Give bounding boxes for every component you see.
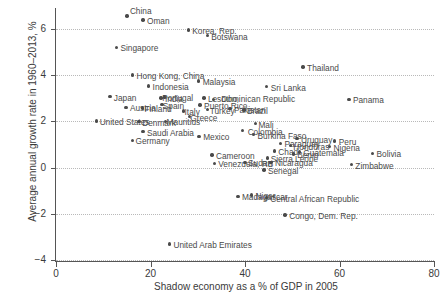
x-tick-mark [151,262,152,267]
data-point [243,161,246,164]
gridline-horizontal [56,260,434,261]
y-tick-mark [51,29,56,30]
data-point-label: Thailand [307,64,339,72]
y-tick-label: 4 [18,69,46,80]
data-point-label: Congo, Dem. Rep. [289,212,358,220]
data-point-label: Brazil [247,107,268,115]
data-point-label: Indonesia [153,83,189,91]
data-point-label: Sri Lanka [271,84,306,92]
data-point [273,149,276,152]
data-point [197,135,200,138]
data-point [262,168,265,171]
y-tick-mark [51,260,56,261]
data-point [125,14,128,17]
data-point [213,162,216,165]
data-point [250,193,253,196]
y-tick-label: 2 [18,115,46,126]
data-point-label: Bolivia [377,150,401,158]
y-tick-label: −2 [18,208,46,219]
data-point-label: Japan [114,94,137,102]
data-point [269,161,272,164]
data-point-label: Senegal [268,167,298,175]
data-point [371,152,374,155]
data-point [202,96,205,99]
x-tick-label: 20 [131,268,171,279]
data-point-label: Mexico [203,133,229,141]
x-tick-mark [245,262,246,267]
scatter-chart-figure: Average annual growth rate in 1960–2013,… [0,0,442,305]
data-point [283,213,286,216]
data-point [95,119,98,122]
data-point-label: United Arab Emirates [173,241,251,249]
data-point [265,85,268,88]
x-tick-mark [56,262,57,267]
data-point-label: Zimbabwe [355,162,393,170]
gridline-horizontal [56,29,434,30]
data-point [131,139,134,142]
x-tick-label: 80 [414,268,442,279]
data-point [197,79,200,82]
data-point [347,98,350,101]
data-point [141,130,144,133]
y-tick-mark [51,75,56,76]
data-point [350,163,353,166]
x-tick-mark [340,262,341,267]
data-point [242,108,245,111]
data-point [108,95,111,98]
data-point [254,122,257,125]
y-tick-label: −4 [18,254,46,265]
x-axis-title: Shadow economy as a % of GDP in 2005 [56,281,436,292]
data-point-label: Central African Republic [270,195,359,203]
y-tick-label: 0 [18,162,46,173]
data-point [241,129,244,132]
data-point [187,28,190,31]
y-tick-mark [51,214,56,215]
data-point-label: Germany [136,137,170,145]
data-point [206,34,209,37]
data-point [210,153,213,156]
y-tick-label: 6 [18,23,46,34]
data-point-label: China [130,7,152,15]
data-point [236,195,239,198]
gridline-horizontal [56,75,434,76]
data-point-label: Colombia [248,128,283,136]
data-point [301,65,304,68]
data-point-label: Botswana [211,33,247,41]
data-point-label: Singapore [120,44,158,52]
data-point [168,242,171,245]
data-point [147,84,150,87]
x-tick-label: 40 [225,268,265,279]
data-point [124,106,127,109]
data-point-label: Mauritius [167,118,201,126]
data-point-label: Hong Kong, China [137,72,205,80]
data-point [279,142,282,145]
data-point [131,73,134,76]
y-tick-mark [51,168,56,169]
gridline-horizontal [56,214,434,215]
data-point [115,46,118,49]
data-point-label: Oman [147,17,170,25]
data-point-label: Malaysia [203,78,236,86]
data-point-label: Panama [353,96,384,104]
x-tick-label: 0 [36,268,76,279]
x-tick-label: 60 [320,268,360,279]
data-point [141,18,144,21]
plot-area: ChinaOmanKorea, Rep.BotswanaSingaporeHon… [56,8,434,260]
x-tick-mark [434,262,435,267]
y-tick-mark [51,121,56,122]
data-point-label: Finland [144,105,171,113]
